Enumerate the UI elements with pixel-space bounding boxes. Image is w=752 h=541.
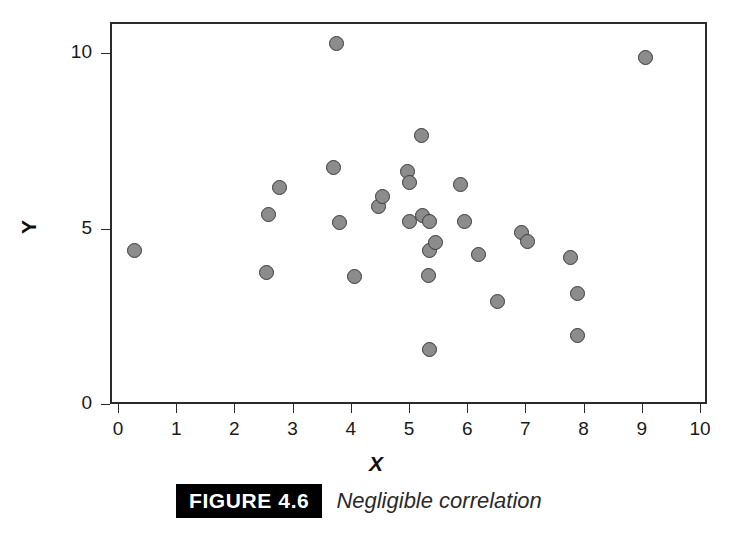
y-tick-label: 0 <box>52 392 92 414</box>
x-tick-mark <box>293 404 294 413</box>
data-point <box>272 180 287 195</box>
data-point <box>421 268 436 283</box>
x-tick-mark <box>234 404 235 413</box>
y-tick-mark <box>101 53 110 54</box>
data-point <box>414 128 429 143</box>
data-point <box>570 286 585 301</box>
x-tick-label: 2 <box>214 418 254 440</box>
x-tick-mark <box>700 404 701 413</box>
x-tick-mark <box>467 404 468 413</box>
data-point <box>471 247 486 262</box>
data-point <box>259 265 274 280</box>
y-tick-mark <box>101 404 110 405</box>
figure-caption-text: Negligible correlation <box>336 488 541 514</box>
y-tick-mark <box>101 229 110 230</box>
x-tick-label: 4 <box>331 418 371 440</box>
y-tick-label: 10 <box>52 41 92 63</box>
x-tick-mark <box>176 404 177 413</box>
y-axis-label: Y <box>17 219 41 233</box>
data-point <box>490 294 505 309</box>
data-point <box>261 207 276 222</box>
figure-container: 012345678910 0510 X Y FIGURE 4.6 Negligi… <box>0 0 752 541</box>
data-point <box>402 214 417 229</box>
x-tick-mark <box>584 404 585 413</box>
data-point <box>402 175 417 190</box>
x-tick-label: 6 <box>447 418 487 440</box>
scatter-plot: 012345678910 0510 X Y <box>0 0 752 448</box>
x-tick-label: 8 <box>564 418 604 440</box>
data-point <box>326 160 341 175</box>
x-tick-mark <box>351 404 352 413</box>
x-tick-mark <box>525 404 526 413</box>
x-axis-label: X <box>0 452 752 476</box>
x-tick-label: 3 <box>273 418 313 440</box>
x-tick-mark <box>409 404 410 413</box>
x-tick-label: 5 <box>389 418 429 440</box>
x-tick-label: 10 <box>680 418 720 440</box>
x-tick-mark <box>118 404 119 413</box>
x-tick-mark <box>642 404 643 413</box>
data-point <box>428 235 443 250</box>
data-point <box>457 214 472 229</box>
figure-caption: FIGURE 4.6 Negligible correlation <box>176 484 542 518</box>
x-tick-label: 0 <box>98 418 138 440</box>
figure-number-badge: FIGURE 4.6 <box>176 484 322 518</box>
x-tick-label: 9 <box>622 418 662 440</box>
plot-frame <box>110 22 707 404</box>
x-tick-label: 7 <box>505 418 545 440</box>
x-tick-label: 1 <box>156 418 196 440</box>
y-tick-label: 5 <box>52 217 92 239</box>
